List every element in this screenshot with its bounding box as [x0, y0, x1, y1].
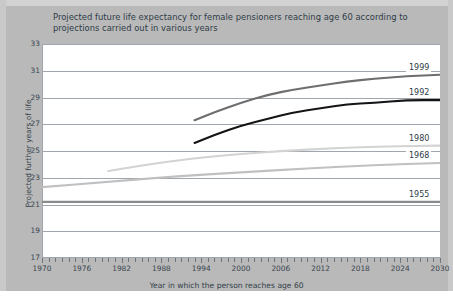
x-tick-label-1970: 1970 [22, 264, 62, 273]
x-tick-label-1988: 1988 [141, 264, 181, 273]
x-tick-2017 [354, 258, 355, 262]
x-tick-2014 [334, 258, 335, 262]
x-tick-2007 [287, 258, 288, 262]
x-tick-2015 [341, 258, 342, 262]
x-tick-2027 [420, 258, 421, 262]
series-lines [42, 44, 440, 258]
x-tick-1983 [128, 258, 129, 262]
x-axis-title: Year in which the person reaches age 60 [0, 281, 453, 290]
x-tick-2010 [307, 258, 308, 262]
series-label-1968: 1968 [406, 150, 431, 161]
x-tick-1981 [115, 258, 116, 262]
series-line-1968 [42, 163, 440, 187]
series-label-1980: 1980 [406, 133, 431, 144]
page-edge-right [448, 0, 453, 300]
x-tick-1979 [102, 258, 103, 262]
x-tick-1986 [148, 258, 149, 262]
x-tick-2020 [374, 258, 375, 262]
x-tick-label-1994: 1994 [181, 264, 221, 273]
x-tick-2019 [367, 258, 368, 262]
x-tick-2009 [301, 258, 302, 262]
x-tick-2022 [387, 258, 388, 262]
x-tick-1999 [234, 258, 235, 262]
x-tick-1993 [195, 258, 196, 262]
series-label-1955: 1955 [406, 189, 431, 200]
x-tick-2018 [360, 258, 361, 263]
x-tick-2024 [400, 258, 401, 263]
x-tick-1997 [221, 258, 222, 262]
x-tick-label-2030: 2030 [420, 264, 453, 273]
x-tick-1977 [88, 258, 89, 262]
x-tick-2029 [433, 258, 434, 262]
series-line-1980 [108, 146, 440, 171]
x-tick-1989 [168, 258, 169, 262]
x-tick-2005 [274, 258, 275, 262]
x-tick-label-2012: 2012 [301, 264, 341, 273]
x-tick-2000 [241, 258, 242, 263]
x-tick-2012 [321, 258, 322, 263]
x-tick-2003 [261, 258, 262, 262]
x-tick-1988 [161, 258, 162, 263]
x-tick-1984 [135, 258, 136, 262]
x-tick-1978 [95, 258, 96, 262]
x-tick-2026 [413, 258, 414, 262]
chart-screenshot: Projected future life expectancy for fem… [0, 0, 453, 300]
x-tick-1970 [42, 258, 43, 263]
x-tick-1976 [82, 258, 83, 263]
x-tick-2025 [407, 258, 408, 262]
x-tick-2002 [254, 258, 255, 262]
x-tick-1982 [122, 258, 123, 263]
x-tick-2013 [327, 258, 328, 262]
x-tick-1985 [142, 258, 143, 262]
x-tick-2001 [248, 258, 249, 262]
chart-title: Projected future life expectancy for fem… [53, 12, 413, 35]
series-label-1992: 1992 [406, 87, 431, 98]
plot-area [42, 44, 440, 258]
x-tick-1972 [55, 258, 56, 262]
page-edge-top [0, 0, 453, 6]
x-tick-2023 [394, 258, 395, 262]
x-tick-1975 [75, 258, 76, 262]
x-tick-1998 [228, 258, 229, 262]
x-tick-1974 [69, 258, 70, 262]
x-tick-label-1976: 1976 [62, 264, 102, 273]
x-tick-2016 [347, 258, 348, 262]
y-axis-title: Projected further years of life [24, 79, 33, 229]
x-axis-tick-labels: 1970197619821988199420002006201220182024… [0, 264, 453, 276]
x-tick-1994 [201, 258, 202, 263]
x-tick-1971 [49, 258, 50, 262]
x-tick-1973 [62, 258, 63, 262]
page-edge-left [0, 0, 6, 300]
x-tick-2011 [314, 258, 315, 262]
x-tick-2030 [440, 258, 441, 263]
x-tick-2004 [268, 258, 269, 262]
series-line-1999 [195, 75, 440, 120]
page-edge-bottom [0, 291, 453, 300]
x-tick-label-2006: 2006 [261, 264, 301, 273]
x-tick-label-2018: 2018 [340, 264, 380, 273]
x-tick-1992 [188, 258, 189, 262]
x-tick-1987 [155, 258, 156, 262]
series-label-1999: 1999 [406, 62, 431, 73]
x-tick-2008 [294, 258, 295, 262]
x-tick-1995 [208, 258, 209, 262]
x-tick-2006 [281, 258, 282, 263]
x-tick-1980 [108, 258, 109, 262]
x-tick-2021 [380, 258, 381, 262]
x-tick-1990 [175, 258, 176, 262]
x-tick-1991 [181, 258, 182, 262]
x-tick-label-2024: 2024 [380, 264, 420, 273]
x-tick-1996 [214, 258, 215, 262]
x-tick-label-1982: 1982 [102, 264, 142, 273]
x-tick-label-2000: 2000 [221, 264, 261, 273]
y-axis-title-wrapper: Projected further years of life [18, 44, 32, 258]
x-tick-2028 [427, 258, 428, 262]
